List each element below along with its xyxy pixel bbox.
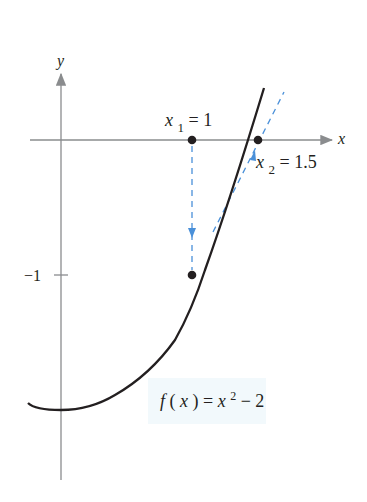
x2-label: x 2 = 1.5 <box>255 152 317 178</box>
point-x2 <box>254 136 263 145</box>
point-x1 <box>188 136 197 145</box>
y-tick-label: −1 <box>24 267 41 284</box>
x-axis-label: x <box>337 130 345 147</box>
x1-label: x 1 = 1 <box>164 110 212 136</box>
newton-method-diagram: x y −1 x 1 = 1 x 2 = 1.5 f ( x ) = x 2 −… <box>0 0 367 502</box>
down-arrow-icon <box>188 228 196 238</box>
y-axis-label: y <box>55 52 65 70</box>
function-curve <box>28 88 264 410</box>
point-f-x1 <box>188 271 197 280</box>
